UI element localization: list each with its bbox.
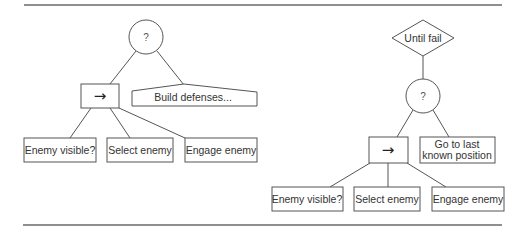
edge-root-to-sequence <box>110 51 136 84</box>
selector-symbol: ? <box>143 32 149 43</box>
selector-node: ? <box>406 79 440 113</box>
build-defenses-label: Build defenses... <box>154 91 232 103</box>
edge-sequence-to-leaf-1 <box>70 108 91 138</box>
leaf-select-enemy: Select enemy <box>107 138 173 162</box>
leaf-label: Engage enemy <box>433 193 504 205</box>
sequence-node: → <box>369 137 408 163</box>
build-defenses-node: Build defenses... <box>132 84 257 106</box>
leaf-enemy-visible: Enemy visible? <box>272 187 343 211</box>
until-fail-label: Until fail <box>404 32 441 44</box>
leaf-engage-enemy: Engage enemy <box>185 138 257 162</box>
edge-selector-to-sequence <box>397 110 413 137</box>
edge-sequence-to-leaf-1 <box>330 163 370 187</box>
leaf-label: Enemy visible? <box>25 144 96 156</box>
edge-selector-to-fallback <box>433 110 449 137</box>
leaf-engage-enemy: Engage enemy <box>432 187 504 211</box>
selector-symbol: ? <box>420 91 426 102</box>
sequence-node: → <box>81 84 119 108</box>
right-tree: Until fail ? → Go to last known position… <box>272 20 504 211</box>
edge-sequence-to-leaf-3 <box>407 163 446 187</box>
go-to-last-known-position-node: Go to last known position <box>420 137 495 163</box>
leaf-label: Engage enemy <box>186 144 257 156</box>
until-fail-node: Until fail <box>392 20 454 56</box>
selector-node: ? <box>129 20 163 54</box>
leaf-label: Select enemy <box>355 193 419 205</box>
edge-sequence-to-leaf-2 <box>110 108 130 138</box>
leaf-select-enemy: Select enemy <box>354 187 420 211</box>
leaf-label: Select enemy <box>108 144 172 156</box>
left-tree: ? → Build defenses... Enemy visible? Sel… <box>24 20 257 162</box>
edge-sequence-to-leaf-3 <box>119 108 185 138</box>
edge-root-to-fallback <box>157 51 184 85</box>
action-label-line-2: known position <box>422 149 492 161</box>
behavior-tree-figure: ? → Build defenses... Enemy visible? Sel… <box>0 0 526 227</box>
sequence-arrow-icon: → <box>382 141 395 159</box>
leaf-label: Enemy visible? <box>272 193 343 205</box>
sequence-arrow-icon: → <box>94 87 107 105</box>
leaf-enemy-visible: Enemy visible? <box>24 138 96 162</box>
